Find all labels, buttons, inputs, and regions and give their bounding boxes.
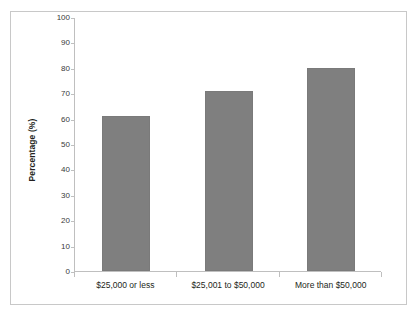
- x-axis-tick-mark: [74, 272, 75, 277]
- y-axis-tick-label: 100: [38, 14, 70, 22]
- y-axis-tick-mark: [71, 18, 75, 19]
- x-axis-tick-mark: [381, 272, 382, 277]
- y-axis-tick-label: 80: [38, 65, 70, 73]
- y-axis-tick-mark: [71, 170, 75, 171]
- y-axis-tick-labels: 1009080706050403020100: [38, 0, 70, 320]
- y-axis-tick-label: 30: [38, 192, 70, 200]
- y-axis-tick-label: 60: [38, 116, 70, 124]
- y-axis-tick-mark: [71, 69, 75, 70]
- y-axis-tick-mark: [71, 145, 75, 146]
- y-axis-tick-mark: [71, 221, 75, 222]
- x-axis-tick-mark: [279, 272, 280, 277]
- y-axis-tick-label: 10: [38, 243, 70, 251]
- x-axis-tick-marks: [74, 272, 382, 278]
- y-axis-tick-label: 90: [38, 39, 70, 47]
- y-axis-tick-label: 0: [38, 268, 70, 276]
- x-axis-category-label: More than $50,000: [279, 281, 382, 299]
- y-axis-tick-label: 70: [38, 90, 70, 98]
- bar[interactable]: [307, 68, 355, 271]
- y-axis-tick-label: 20: [38, 217, 70, 225]
- x-axis-category-label: $25,000 or less: [74, 281, 177, 299]
- x-axis-category-label: $25,001 to $50,000: [177, 281, 280, 299]
- y-axis-tick-mark: [71, 94, 75, 95]
- y-axis-tick-mark: [71, 247, 75, 248]
- bar[interactable]: [205, 91, 253, 271]
- y-axis-title-label: Percentage (%): [27, 119, 37, 182]
- bar[interactable]: [102, 116, 150, 271]
- y-axis-tick-mark: [71, 43, 75, 44]
- y-axis-tick-label: 40: [38, 166, 70, 174]
- y-axis-tick-mark: [71, 120, 75, 121]
- y-axis-tick-mark: [71, 196, 75, 197]
- x-axis-tick-mark: [176, 272, 177, 277]
- plot-area: [74, 18, 381, 272]
- y-axis-tick-label: 50: [38, 141, 70, 149]
- bar-chart-figure: Percentage (%) 1009080706050403020100 $2…: [0, 0, 418, 320]
- x-axis-tick-labels: $25,000 or less$25,001 to $50,000More th…: [74, 281, 382, 299]
